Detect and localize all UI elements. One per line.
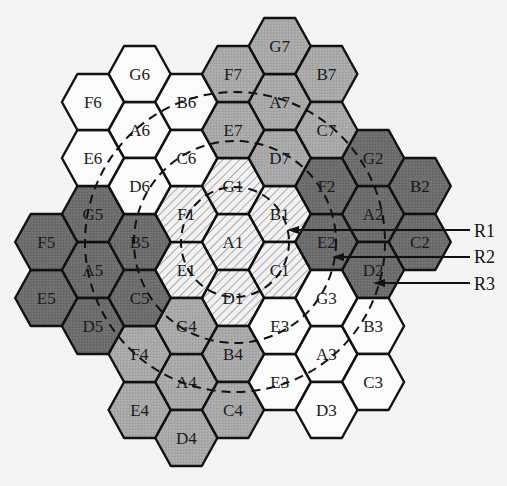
cell-label: D5 <box>83 317 104 336</box>
cell-label: F6 <box>84 93 102 112</box>
cell-label: C2 <box>410 233 430 252</box>
cell-label: C4 <box>223 401 243 420</box>
cell-label: F4 <box>131 345 149 364</box>
cell-label: A5 <box>83 261 104 280</box>
cell-label: G2 <box>363 149 384 168</box>
cell-label: F5 <box>37 233 55 252</box>
cell-label: G1 <box>223 177 244 196</box>
cell-label: F2 <box>317 177 335 196</box>
cell-label: C5 <box>130 289 150 308</box>
cell-label: G3 <box>316 289 337 308</box>
cell-label: B4 <box>223 345 243 364</box>
cell-label: D6 <box>129 177 150 196</box>
ring-label-r3: R3 <box>474 274 495 294</box>
cell-label: A3 <box>316 345 337 364</box>
cell-label: E4 <box>130 401 149 420</box>
cell-label: A4 <box>176 373 197 392</box>
cell-label: C6 <box>176 149 196 168</box>
cell-label: B6 <box>176 93 196 112</box>
ring-label-r2: R2 <box>474 247 495 267</box>
cell-label: E1 <box>177 261 196 280</box>
diagram-canvas: A1G1B1C1D1E1F1A2G2B2C2D2E2F2A3G3B3C3D3E3… <box>0 0 507 486</box>
cell-label: G6 <box>129 65 150 84</box>
cell-label: E6 <box>83 149 102 168</box>
cell-label: A1 <box>223 233 244 252</box>
cell-label: C1 <box>270 261 290 280</box>
cell-label: C7 <box>316 121 336 140</box>
cell-label: E7 <box>224 121 243 140</box>
cell-label: E2 <box>317 233 336 252</box>
cell-label: A6 <box>129 121 150 140</box>
cell-label: F7 <box>224 65 242 84</box>
cell-label: D4 <box>176 429 197 448</box>
cell-label: G4 <box>176 317 197 336</box>
cell-label: D3 <box>316 401 337 420</box>
cell-label: E3 <box>270 317 289 336</box>
cell-label: B3 <box>363 317 383 336</box>
cell-label: B2 <box>410 177 430 196</box>
cell-label: B5 <box>130 233 150 252</box>
cell-label: F1 <box>177 205 195 224</box>
cell-label: B1 <box>270 205 290 224</box>
cell-label: A2 <box>363 205 384 224</box>
cell-label: D2 <box>363 261 384 280</box>
cell-label: G5 <box>83 205 104 224</box>
cell-label: D1 <box>223 289 244 308</box>
hex-cell-diagram: A1G1B1C1D1E1F1A2G2B2C2D2E2F2A3G3B3C3D3E3… <box>0 0 507 486</box>
cell-label: B7 <box>316 65 336 84</box>
cell-label: D7 <box>269 149 290 168</box>
ring-label-r1: R1 <box>474 221 495 241</box>
cell-label: G7 <box>269 37 290 56</box>
cell-label: C3 <box>363 373 383 392</box>
cell-label: A7 <box>269 93 290 112</box>
cell-label: E5 <box>37 289 56 308</box>
cell-label: E3 <box>270 373 289 392</box>
